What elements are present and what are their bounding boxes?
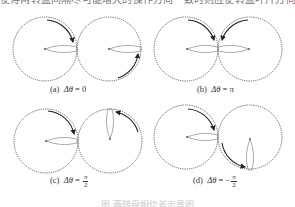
caption-c-fraction: π2: [83, 174, 89, 189]
caption-c-symbol: Δθ: [64, 175, 73, 185]
caption-b-value: π: [229, 84, 233, 94]
caption-d-symbol: Δθ: [207, 175, 216, 185]
panel-d-figure: [154, 105, 282, 170]
caption-a-equals: =: [75, 84, 80, 94]
caption-d-sign: −: [225, 175, 230, 185]
caption-a-value: 0: [82, 84, 86, 94]
caption-a-prefix: (a): [50, 84, 59, 94]
right-petal: [109, 45, 141, 52]
rotor-phase-diagram: [0, 0, 295, 207]
panel-a-figure: [13, 17, 141, 81]
caption-b-equals: =: [222, 84, 227, 94]
caption-a: (a) Δθ = 0: [50, 84, 86, 94]
caption-c-equals: =: [75, 175, 80, 185]
caption-d-fraction: π2: [231, 174, 237, 189]
left-petal: [45, 45, 77, 52]
caption-d-equals: =: [218, 175, 223, 185]
caption-b-prefix: (b): [197, 84, 207, 94]
panel-c-figure: [14, 109, 142, 173]
left-rotation-arrow: [47, 20, 73, 42]
panel-b-figure: [154, 17, 282, 81]
figure-caption: 图 两转盘相位差示意图: [0, 198, 295, 207]
caption-d-prefix: (d): [193, 175, 203, 185]
caption-d-denominator: 2: [231, 182, 237, 189]
caption-c: (c) Δθ = π2: [50, 174, 88, 189]
caption-d: (d) Δθ = −π2: [193, 174, 237, 189]
caption-c-prefix: (c): [50, 175, 59, 185]
caption-b: (b) Δθ = π: [197, 84, 234, 94]
caption-b-symbol: Δθ: [211, 84, 220, 94]
caption-c-denominator: 2: [83, 182, 89, 189]
caption-a-symbol: Δθ: [64, 84, 73, 94]
